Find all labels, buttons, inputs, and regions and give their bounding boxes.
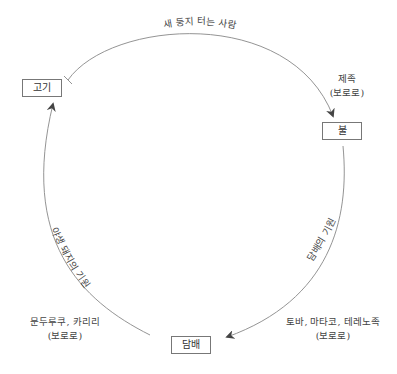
edge-fire-tobacco-arc-label: 담배의 기원: [304, 216, 337, 262]
edge-meat-fire-bar-end: [64, 76, 72, 84]
node-fire: 불: [322, 122, 362, 140]
edge-meat-fire-side-label: 제족 (보로로): [322, 72, 372, 100]
node-fire-label: 불: [338, 125, 347, 136]
edge-meat-fire-arc-label: 새 둥지 터는 사람: [163, 15, 238, 30]
side-label-line1: 토바, 마타코, 테레노족: [278, 315, 388, 329]
edge-fire-tobacco-side-label: 토바, 마타코, 테레노족 (보로로): [278, 315, 388, 343]
node-meat: 고기: [22, 79, 62, 97]
edge-meat-fire-arc: [68, 34, 333, 116]
edge-tobacco-meat-arc: [44, 104, 150, 335]
edge-tobacco-meat-side-label: 문두루쿠, 카리리 (보로로): [20, 315, 110, 343]
side-label-line2: (보로로): [278, 329, 388, 343]
side-label-line1: 제족: [322, 72, 372, 86]
edge-tobacco-meat-arc-label: 야생 돼지의 기원: [50, 226, 93, 290]
side-label-line2: (보로로): [322, 86, 372, 100]
side-label-line1: 문두루쿠, 카리리: [20, 315, 110, 329]
node-tobacco: 담배: [171, 336, 211, 354]
node-meat-label: 고기: [33, 82, 51, 93]
side-label-line2: (보로로): [20, 329, 110, 343]
node-tobacco-label: 담배: [182, 339, 200, 350]
